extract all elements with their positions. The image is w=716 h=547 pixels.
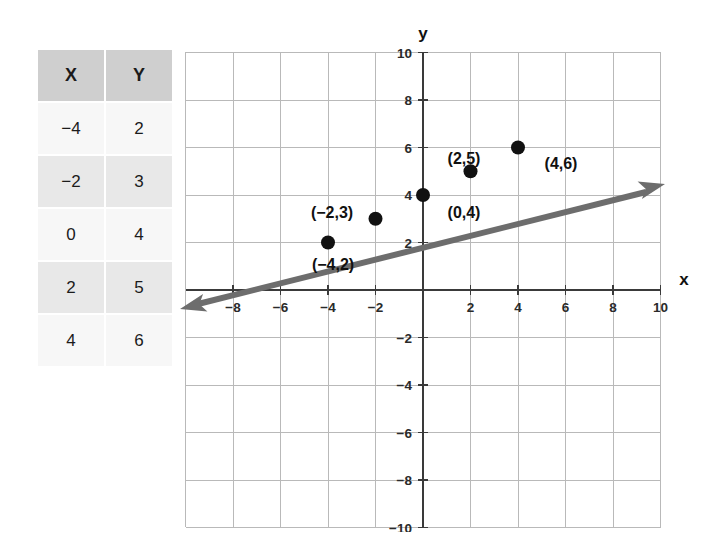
cell-y: 4 <box>105 208 173 261</box>
y-tick-label: 6 <box>404 141 412 156</box>
data-point <box>369 212 383 226</box>
column-header-x: X <box>37 49 105 102</box>
point-label-neg4-2: (−4,2) <box>312 256 354 273</box>
cell-y: 6 <box>105 314 173 367</box>
data-point <box>511 141 525 155</box>
y-tick-label: −8 <box>397 473 413 488</box>
x-tick-label: 4 <box>514 300 522 315</box>
x-axis-label: x <box>679 270 689 289</box>
y-axis-label: y <box>418 24 428 43</box>
x-tick-label: −6 <box>273 300 289 315</box>
x-tick-label: 10 <box>653 300 668 315</box>
point-label-neg2-3: (−2,3) <box>311 204 353 221</box>
table-row: −4 2 <box>37 102 173 155</box>
cell-y: 2 <box>105 102 173 155</box>
x-tick-label: −8 <box>225 300 241 315</box>
point-labels: (−4,2) (−2,3) (0,4) (2,5) (4,6) <box>311 150 578 273</box>
x-tick-label: −2 <box>368 300 383 315</box>
x-tick-labels: −8 −6 −4 −2 2 4 6 8 10 <box>225 300 668 315</box>
graph-svg: −8 −6 −4 −2 2 4 6 8 10 10 8 6 4 2 −2 −4 … <box>176 22 716 532</box>
cell-x: −4 <box>37 102 105 155</box>
arrowhead-left-icon <box>178 294 208 318</box>
coordinate-graph: −8 −6 −4 −2 2 4 6 8 10 10 8 6 4 2 −2 −4 … <box>176 22 716 532</box>
y-tick-labels: 10 8 6 4 2 −2 −4 −6 −8 −10 <box>389 46 412 533</box>
cell-y: 5 <box>105 261 173 314</box>
cell-y: 3 <box>105 155 173 208</box>
table-row: 2 5 <box>37 261 173 314</box>
data-point <box>416 188 430 202</box>
y-tick-label: −2 <box>397 331 412 346</box>
table-row: 4 6 <box>37 314 173 367</box>
y-tick-label: −10 <box>389 521 412 533</box>
cell-x: 0 <box>37 208 105 261</box>
y-tick-label: 8 <box>404 93 412 108</box>
table-header-row: X Y <box>37 49 173 102</box>
cell-x: −2 <box>37 155 105 208</box>
y-tick-label: −4 <box>397 378 413 393</box>
x-tick-label: 2 <box>467 300 475 315</box>
x-tick-label: 6 <box>562 300 570 315</box>
cell-x: 2 <box>37 261 105 314</box>
y-tick-label: 10 <box>397 46 412 61</box>
xy-value-table: X Y −4 2 −2 3 0 4 2 5 4 6 <box>36 48 174 368</box>
point-label-4-6: (4,6) <box>545 155 578 172</box>
cell-x: 4 <box>37 314 105 367</box>
y-tick-label: −6 <box>397 426 413 441</box>
y-tick-label: 4 <box>404 188 412 203</box>
column-header-y: Y <box>105 49 173 102</box>
table-row: −2 3 <box>37 155 173 208</box>
point-label-0-4: (0,4) <box>448 204 481 221</box>
point-label-2-5: (2,5) <box>448 150 481 167</box>
table-row: 0 4 <box>37 208 173 261</box>
x-tick-label: 8 <box>609 300 617 315</box>
data-point <box>321 236 335 250</box>
x-tick-label: −4 <box>320 300 336 315</box>
